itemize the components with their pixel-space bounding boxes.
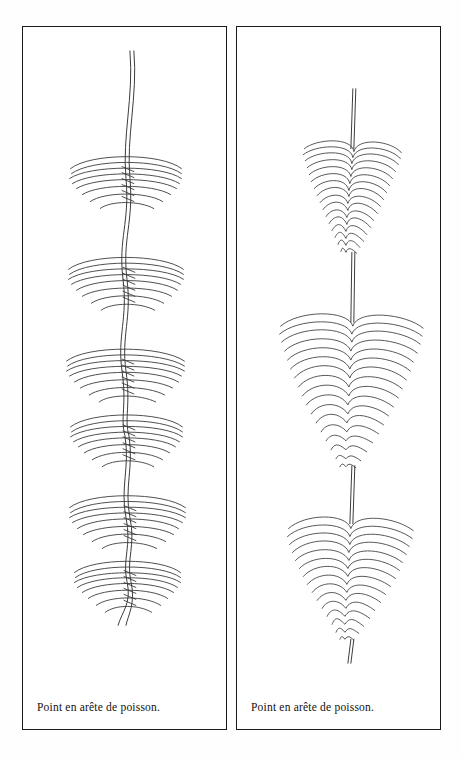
panel-right-caption: Point en arête de poisson. <box>251 701 374 713</box>
fishbone-stitch-dense-diagram <box>237 27 440 729</box>
panel-left-caption: Point en arête de poisson. <box>37 701 160 713</box>
figure-panel-right: Point en arête de poisson. <box>236 26 441 730</box>
figure-panel-left: Point en arête de poisson. <box>22 26 227 730</box>
fishbone-stitch-open-diagram <box>23 27 226 729</box>
page-canvas: Point en arête de poisson. <box>0 0 461 759</box>
